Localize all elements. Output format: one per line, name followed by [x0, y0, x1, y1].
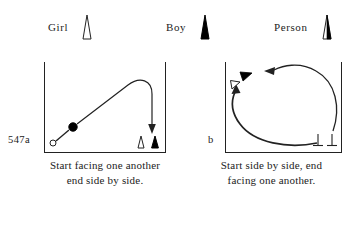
left-arrowhead-boy-icon	[264, 67, 275, 75]
panel-b-path-boy	[274, 65, 337, 131]
panel-b-caption-line2: facing one another.	[188, 173, 355, 188]
tee-mark-boy	[327, 134, 337, 146]
panel-b-caption: Start side by side, end facing one anoth…	[188, 158, 355, 188]
filled-arrowhead-boy	[240, 72, 252, 81]
panel-b-path-girl	[232, 92, 317, 145]
panel-b-id: b	[208, 134, 214, 145]
panel-b-caption-line1: Start side by side, end	[188, 158, 355, 173]
